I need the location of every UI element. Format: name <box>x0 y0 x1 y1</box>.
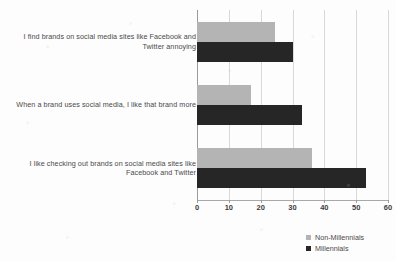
bar-group <box>197 137 388 200</box>
legend-label: Millennials <box>315 244 349 253</box>
bar-group <box>197 10 388 73</box>
x-tick-mark <box>388 200 389 203</box>
bar-millennials <box>197 42 293 62</box>
bar-non-millennials <box>197 22 275 42</box>
x-tick-label: 30 <box>281 203 305 212</box>
legend-swatch-icon <box>306 246 311 251</box>
gridline <box>388 10 389 200</box>
bar-group <box>197 73 388 136</box>
chart-legend: Non-MillennialsMillennials <box>306 232 364 254</box>
x-tick-label: 50 <box>344 203 368 212</box>
x-tick-mark <box>293 200 294 203</box>
x-tick-label: 60 <box>376 203 396 212</box>
x-tick-label: 10 <box>217 203 241 212</box>
category-label: When a brand uses social media, I like t… <box>4 100 196 110</box>
x-tick-mark <box>229 200 230 203</box>
x-tick-label: 40 <box>312 203 336 212</box>
legend-item: Millennials <box>306 243 364 254</box>
legend-item: Non-Millennials <box>306 232 364 243</box>
category-label: I like checking out brands on social med… <box>4 159 196 178</box>
x-tick-label: 0 <box>185 203 209 212</box>
bar-non-millennials <box>197 85 251 105</box>
bar-millennials <box>197 168 366 188</box>
x-tick-mark <box>324 200 325 203</box>
x-tick-label: 20 <box>249 203 273 212</box>
bar-millennials <box>197 105 302 125</box>
x-tick-mark <box>261 200 262 203</box>
bar-chart: I find brands on social media sites like… <box>0 0 396 261</box>
bar-non-millennials <box>197 148 312 168</box>
legend-swatch-icon <box>306 235 311 240</box>
plot-area <box>197 10 388 200</box>
legend-label: Non-Millennials <box>315 233 364 242</box>
x-tick-mark <box>356 200 357 203</box>
x-tick-mark <box>197 200 198 203</box>
category-label: I find brands on social media sites like… <box>4 32 196 51</box>
